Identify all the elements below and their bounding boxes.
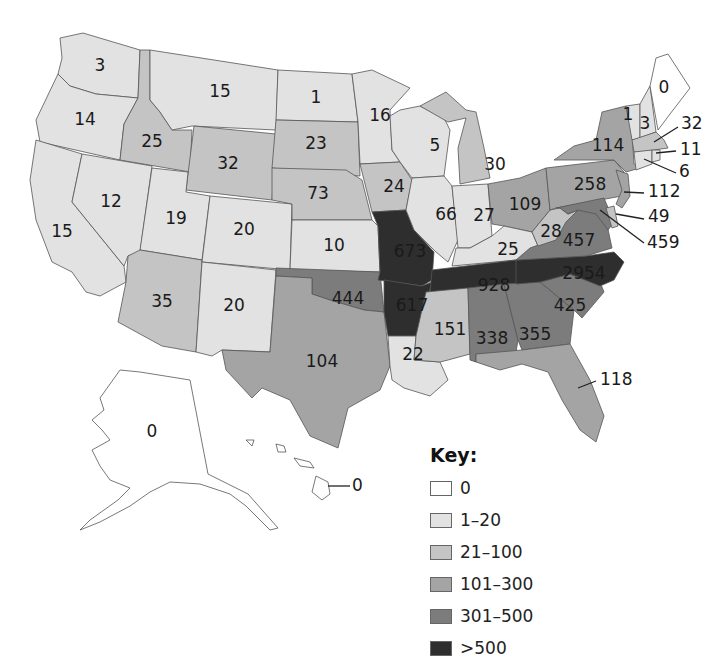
state-fl — [476, 344, 604, 442]
label-tx: 104 — [306, 351, 338, 371]
label-pa: 258 — [574, 174, 606, 194]
label-nd: 1 — [311, 87, 322, 107]
state-ri — [652, 150, 660, 162]
label-ms: 151 — [434, 319, 466, 339]
label-wy: 32 — [217, 153, 239, 173]
label-ia: 24 — [383, 176, 405, 196]
legend-swatch — [430, 513, 452, 528]
label-la: 22 — [402, 344, 424, 364]
label-ct: 6 — [679, 161, 690, 181]
label-il: 66 — [435, 204, 457, 224]
label-de: 49 — [648, 206, 670, 226]
legend-swatch — [430, 609, 452, 624]
label-ri: 11 — [680, 139, 702, 159]
label-nj: 112 — [648, 181, 680, 201]
label-nm: 20 — [223, 295, 245, 315]
hi-islands — [246, 440, 314, 468]
label-fl: 118 — [600, 369, 632, 389]
label-wv: 28 — [540, 221, 562, 241]
label-hi: 0 — [352, 475, 363, 495]
state-ct — [634, 150, 652, 170]
label-sc: 425 — [554, 295, 586, 315]
label-mn: 16 — [369, 105, 391, 125]
label-oh: 109 — [509, 194, 541, 214]
label-ny: 114 — [592, 135, 624, 155]
legend-label: 0 — [460, 478, 471, 498]
label-ks: 10 — [323, 235, 345, 255]
label-ok: 444 — [332, 288, 364, 308]
label-az: 35 — [151, 291, 173, 311]
label-sd: 23 — [305, 133, 327, 153]
legend-swatch — [430, 481, 452, 496]
legend-item-5: >500 — [430, 632, 533, 656]
label-mt: 15 — [209, 81, 231, 101]
label-mi: 30 — [484, 154, 506, 174]
label-ne: 73 — [307, 183, 329, 203]
leader-ct — [644, 159, 676, 173]
legend-label: >500 — [460, 638, 507, 656]
legend-item-2: 21–100 — [430, 536, 533, 568]
label-ar: 617 — [396, 295, 428, 315]
label-ut: 19 — [165, 208, 187, 228]
label-ak: 0 — [147, 421, 158, 441]
label-al: 338 — [476, 328, 508, 348]
legend-swatch — [430, 577, 452, 592]
label-ca: 15 — [51, 221, 73, 241]
legend-label: 101–300 — [460, 574, 533, 594]
label-mo: 673 — [394, 241, 426, 261]
label-va: 457 — [563, 230, 595, 250]
label-wa: 3 — [95, 55, 106, 75]
legend-label: 1–20 — [460, 510, 501, 530]
legend-item-1: 1–20 — [430, 504, 533, 536]
label-or: 14 — [74, 109, 96, 129]
label-tn: 928 — [478, 275, 510, 295]
legend-title: Key: — [430, 444, 533, 466]
label-nh: 3 — [640, 113, 651, 133]
label-me: 0 — [659, 77, 670, 97]
legend-item-0: 0 — [430, 472, 533, 504]
us-choropleth-map: 3 14 15 25 12 15 32 19 35 20 20 1 23 73 … — [0, 0, 728, 656]
legend-swatch — [430, 641, 452, 656]
label-ma: 32 — [681, 113, 703, 133]
leader-de — [616, 214, 644, 219]
label-vt: 1 — [623, 104, 634, 124]
label-ga: 355 — [519, 324, 551, 344]
label-co: 20 — [233, 219, 255, 239]
label-nv: 12 — [100, 191, 122, 211]
label-id: 25 — [141, 131, 163, 151]
legend-label: 301–500 — [460, 606, 533, 626]
legend-item-3: 101–300 — [430, 568, 533, 600]
label-ky: 25 — [497, 239, 519, 259]
legend: Key: 0 1–20 21–100 101–300 301–500 >500 — [430, 444, 533, 656]
legend-swatch — [430, 545, 452, 560]
label-wi: 5 — [430, 135, 441, 155]
legend-item-4: 301–500 — [430, 600, 533, 632]
label-md: 459 — [647, 232, 679, 252]
state-hi — [312, 476, 330, 500]
legend-label: 21–100 — [460, 542, 523, 562]
label-in: 27 — [473, 205, 495, 225]
label-nc: 2954 — [562, 263, 605, 283]
